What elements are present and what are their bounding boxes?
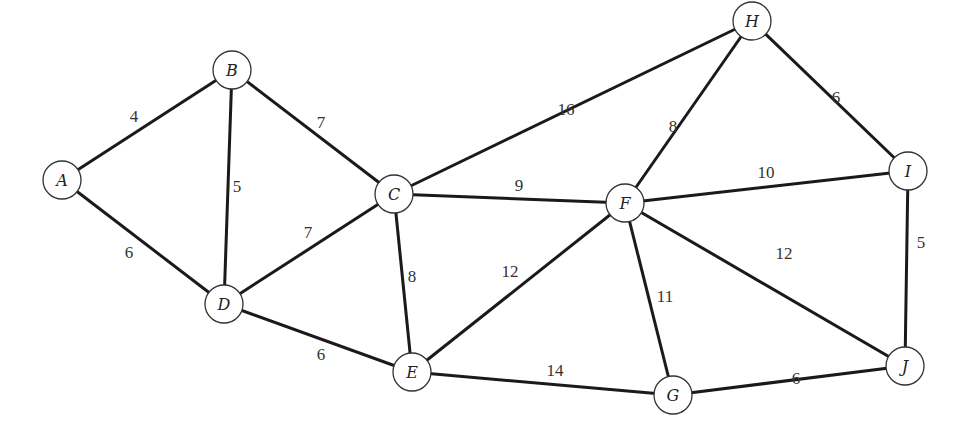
edge-e-g <box>412 372 673 395</box>
node-d: D <box>205 285 243 323</box>
edge-weight-a-b: 4 <box>130 107 139 126</box>
edge-e-f <box>412 203 625 372</box>
edge-weight-f-i: 10 <box>758 163 775 182</box>
edge-weight-g-j: 6 <box>792 369 801 388</box>
node-label: B <box>225 61 238 80</box>
edge-weight-e-f: 12 <box>502 262 519 281</box>
edge-weight-d-e: 6 <box>317 345 326 364</box>
edge-weight-f-g: 11 <box>657 287 673 306</box>
edge-weight-b-d: 5 <box>233 177 242 196</box>
edge-weight-c-h: 16 <box>558 100 575 119</box>
edge-weight-h-i: 6 <box>832 88 841 107</box>
edge-weight-b-c: 7 <box>317 113 326 132</box>
node-e: E <box>393 353 431 391</box>
edge-weight-c-f: 9 <box>515 176 524 195</box>
edge-b-c <box>232 70 394 194</box>
node-label: F <box>618 194 631 213</box>
edge-weight-e-g: 14 <box>547 361 565 380</box>
edge-weight-d-c: 7 <box>304 223 313 242</box>
edge-g-j <box>673 366 905 395</box>
edge-weights-layer: 465776891612148101112656 <box>125 88 926 388</box>
edge-weight-f-j: 12 <box>776 244 793 263</box>
node-label: A <box>54 171 68 190</box>
node-label: I <box>904 162 912 181</box>
node-label: D <box>217 295 231 314</box>
node-g: G <box>654 376 692 414</box>
edge-weight-f-h: 8 <box>669 117 678 136</box>
node-label: C <box>388 185 400 204</box>
edge-c-f <box>394 194 625 203</box>
edge-b-d <box>224 70 232 304</box>
edge-weight-i-j: 5 <box>917 233 926 252</box>
node-label: G <box>667 386 680 405</box>
node-h: H <box>733 2 771 40</box>
edge-d-c <box>224 194 394 304</box>
edge-i-j <box>905 171 908 366</box>
node-b: B <box>213 51 251 89</box>
edge-a-b <box>62 70 232 180</box>
edge-a-d <box>62 180 224 304</box>
weighted-graph-diagram: 465776891612148101112656 ABCDEFGHIJ <box>0 0 965 430</box>
edges-layer <box>62 21 908 395</box>
node-label: E <box>405 363 418 382</box>
node-a: A <box>43 161 81 199</box>
node-c: C <box>375 175 413 213</box>
edge-h-i <box>752 21 908 171</box>
edge-f-h <box>625 21 752 203</box>
node-label: H <box>744 12 760 31</box>
edge-f-j <box>625 203 905 366</box>
node-f: F <box>606 184 644 222</box>
edge-weight-c-e: 8 <box>408 267 417 286</box>
node-i: I <box>889 152 927 190</box>
node-j: J <box>886 347 924 385</box>
edge-weight-a-d: 6 <box>125 243 134 262</box>
